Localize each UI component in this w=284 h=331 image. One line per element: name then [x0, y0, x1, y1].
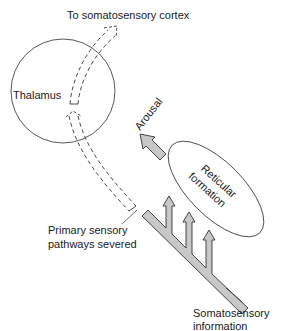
severed-leader-line: [122, 210, 137, 224]
severed-pathway: [69, 116, 136, 211]
severed-label-line2: pathways severed: [48, 238, 137, 250]
somatosensory-pathway: [142, 196, 248, 314]
somato-label-line1: Somatosensory: [193, 307, 270, 319]
cortex-label: To somatosensory cortex: [67, 9, 190, 21]
severed-arrowhead-icon: [66, 111, 81, 117]
reticular-formation-diagram: Thalamus To somatosensory cortex Primary…: [0, 0, 284, 331]
reticular-label: Reticular formation: [187, 159, 240, 210]
arousal-label: Arousal: [132, 95, 164, 132]
arousal-arrow-icon: [140, 134, 166, 160]
thalamus-label: Thalamus: [13, 89, 62, 101]
somato-label-line2: information: [193, 320, 247, 331]
severed-pathway-end-cap: [129, 206, 136, 211]
severed-label-line1: Primary sensory: [48, 224, 128, 236]
